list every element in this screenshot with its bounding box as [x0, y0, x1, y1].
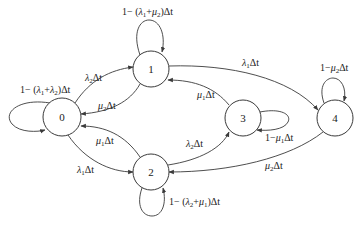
edge-3-3-self-loop [257, 111, 289, 131]
state-node-2: 2 [133, 154, 169, 190]
state-label-0: 0 [59, 111, 65, 123]
label-edge-3-to-1: μ1Δt [196, 89, 215, 102]
label-edge-1-to-4: λ1Δt [241, 57, 259, 70]
state-label-4: 4 [332, 112, 338, 124]
label-self-0: 1− (λ1+λ2)Δt [20, 84, 71, 97]
label-edge-2-to-3: λ2Δt [185, 138, 203, 151]
state-node-0: 0 [43, 98, 81, 136]
edge-2-2-self-loop [140, 188, 165, 216]
state-node-4: 4 [317, 100, 353, 136]
edge-4-to-2 [169, 132, 323, 172]
label-self-2: 1− (λ2+μ1)Δt [169, 196, 220, 209]
edge-4-4-self-loop [322, 78, 345, 103]
state-transition-diagram: 0 1 2 3 4 1− (λ1+λ2)Δt 1− (λ1+μ2)Δt 1− (… [0, 0, 361, 227]
edge-1-1-self-loop [137, 20, 164, 55]
state-node-3: 3 [225, 100, 261, 136]
label-edge-2-to-0: μ1Δt [95, 135, 114, 148]
label-edge-4-to-2: μ2Δt [264, 160, 283, 173]
label-edge-0-to-2: λ1Δt [76, 164, 94, 177]
state-node-1: 1 [133, 51, 169, 87]
state-label-2: 2 [148, 166, 154, 178]
label-self-4: 1−μ2Δt [320, 62, 349, 75]
label-self-1: 1− (λ1+μ2)Δt [122, 6, 173, 19]
label-self-3: 1−μ1Δt [265, 132, 294, 145]
state-label-3: 3 [240, 112, 246, 124]
state-label-1: 1 [148, 63, 154, 75]
edge-0-to-1 [75, 67, 133, 103]
